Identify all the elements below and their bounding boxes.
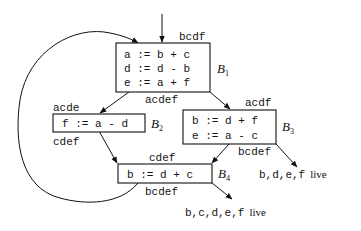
b3-stmt-2: e := a - c <box>192 130 258 142</box>
edge-b3-exit <box>276 144 297 167</box>
b1-stmt-2: d := d - b <box>124 63 190 75</box>
b1-stmt-3: e := a + f <box>124 77 190 89</box>
b4-stmt-1: b := d + c <box>127 169 193 181</box>
b2-live-out: cdef <box>53 136 79 148</box>
b3-live-out: bcdef <box>238 146 271 158</box>
edge-b1-b2 <box>100 92 129 113</box>
exit-b3: b,d,e,flive <box>259 168 327 181</box>
b4-live-in: cdef <box>149 152 175 164</box>
b2-label: B2 <box>151 116 163 133</box>
b2-live-in: acde <box>53 102 79 114</box>
b3-label: B3 <box>282 119 294 136</box>
exit-b4-live: b,c,d,e,flive <box>185 206 266 219</box>
exit-b3-live: b,d,e,flive <box>259 168 327 181</box>
block-b3: b := d + f e := a - c acdf bcdef B3 <box>183 97 294 158</box>
b3-stmt-1: b := d + f <box>192 115 258 127</box>
b4-live-out: bcdef <box>145 186 178 198</box>
edge-b3-b4 <box>212 144 229 163</box>
block-b1: a := b + c d := d - b e := a + f bcdf ac… <box>116 31 229 106</box>
edge-b4-exit <box>212 183 232 199</box>
b3-live-in: acdf <box>245 97 271 109</box>
b1-label: B1 <box>217 61 229 78</box>
b1-stmt-1: a := b + c <box>124 49 190 61</box>
b4-label: B4 <box>218 166 230 183</box>
b1-live-in: bcdf <box>179 31 205 43</box>
block-b2: f := a - d acde cdef B2 <box>53 102 163 148</box>
exit-b4: b,c,d,e,flive <box>185 206 266 219</box>
b1-live-out: acdef <box>145 94 178 106</box>
block-b4: b := d + c cdef bcdef B4 <box>118 152 230 198</box>
b2-stmt-1: f := a - d <box>62 118 128 130</box>
edge-b2-b4 <box>99 131 117 163</box>
flow-graph: a := b + c d := d - b e := a + f bcdf ac… <box>0 0 361 231</box>
edge-b1-b3 <box>210 92 230 109</box>
